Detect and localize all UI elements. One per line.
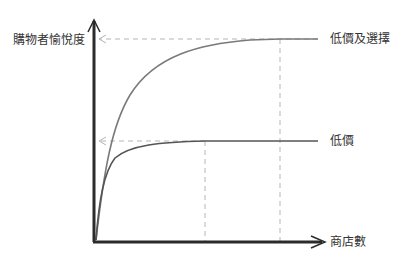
- dashed-arrowheads: [99, 35, 106, 145]
- curve-low-price: [96, 141, 318, 240]
- x-axis-label: 商店數: [330, 235, 366, 249]
- axes: [88, 20, 325, 248]
- series-label-low-price: 低價: [330, 134, 354, 148]
- reference-lines: [99, 39, 318, 241]
- y-axis-label: 購物者愉悅度: [13, 33, 85, 47]
- curve-low-price-and-selection: [96, 39, 318, 240]
- series-label-low-price-and-selection: 低價及選擇: [330, 32, 390, 46]
